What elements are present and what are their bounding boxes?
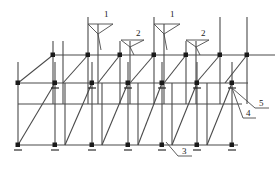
node-joint bbox=[152, 53, 157, 58]
diagonal-brace-back-1 bbox=[18, 55, 53, 83]
leader-1b-fork bbox=[154, 24, 180, 34]
node-joint bbox=[126, 81, 131, 86]
node-joint bbox=[16, 143, 21, 148]
node-joint bbox=[160, 143, 165, 148]
diagonal-brace-back-3 bbox=[98, 55, 120, 83]
leader-1a-fork bbox=[88, 24, 113, 34]
scaffolding-drawing bbox=[0, 0, 278, 169]
callout-2a: 2 bbox=[136, 29, 141, 38]
node-joint bbox=[53, 81, 58, 86]
diagonal-brace-back-4 bbox=[130, 55, 154, 83]
diagonal-brace-back-6 bbox=[196, 55, 220, 83]
node-joint bbox=[230, 81, 235, 86]
node-joint bbox=[218, 53, 223, 58]
diagonal-brace-front-4 bbox=[138, 83, 162, 145]
callout-3: 3 bbox=[182, 147, 187, 156]
base-plates-ground bbox=[14, 143, 236, 151]
diagonal-brace-front-3 bbox=[102, 83, 128, 145]
callout-2b: 2 bbox=[201, 29, 206, 38]
callout-1a: 1 bbox=[104, 10, 109, 19]
leader-2b-tail bbox=[196, 47, 200, 55]
node-joint bbox=[160, 81, 165, 86]
diagonal-brace-back-7 bbox=[225, 55, 247, 83]
diagonal-brace-front-5 bbox=[172, 83, 197, 145]
node-joint bbox=[195, 81, 200, 86]
node-joint bbox=[86, 53, 91, 58]
callout-leaders bbox=[88, 24, 269, 156]
leader-2a-fork bbox=[121, 40, 144, 47]
diagonal-brace-back-5 bbox=[164, 55, 186, 83]
node-joint bbox=[90, 143, 95, 148]
diagonal-brace-back-2 bbox=[63, 55, 88, 83]
diagram-canvas: 1 2 1 2 3 4 5 bbox=[0, 0, 278, 169]
node-joint bbox=[16, 81, 21, 86]
node-joint bbox=[184, 53, 189, 58]
node-joint bbox=[53, 143, 58, 148]
callout-1b: 1 bbox=[170, 10, 175, 19]
callout-5: 5 bbox=[259, 99, 264, 108]
leader-2b-fork bbox=[186, 40, 209, 47]
leader-2a-tail bbox=[130, 47, 134, 55]
diagonal-brace-front-2 bbox=[65, 83, 92, 145]
node-joint bbox=[118, 53, 123, 58]
node-joint bbox=[230, 143, 235, 148]
node-joint bbox=[126, 143, 131, 148]
node-joint bbox=[245, 53, 250, 58]
node-joint bbox=[51, 53, 56, 58]
diagonal-brace-front-1 bbox=[18, 83, 55, 145]
node-joint bbox=[90, 81, 95, 86]
callout-4: 4 bbox=[246, 109, 251, 118]
node-joint bbox=[195, 143, 200, 148]
